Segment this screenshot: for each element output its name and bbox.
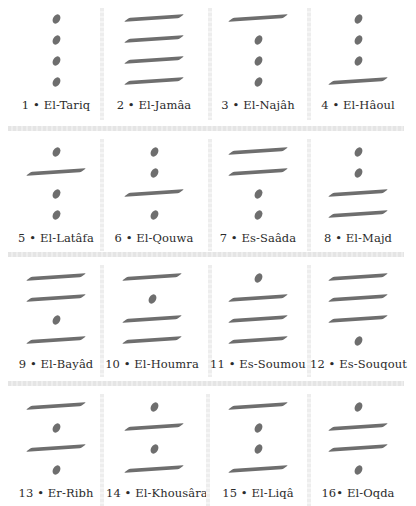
figure-glyph: [210, 133, 306, 225]
line-mark-icon: [228, 14, 288, 21]
figure-level-1: [106, 147, 202, 157]
figure-level-2: [310, 168, 406, 178]
dot-mark-icon: [51, 55, 62, 67]
figure-glyph: [106, 388, 202, 480]
figure-glyph: [8, 259, 104, 351]
figure-level-3: [210, 189, 306, 199]
figure-level-1: [310, 402, 406, 412]
figure-cell-3: 3 • El-Najâh: [210, 0, 306, 118]
figure-level-1: [106, 14, 202, 24]
line-mark-icon: [328, 294, 388, 301]
figure-glyph: [104, 259, 200, 351]
figure-label: 13 • Er-Ribh: [8, 486, 104, 500]
figure-level-2: [106, 168, 202, 178]
figure-level-2: [104, 294, 200, 304]
figure-level-4: [210, 336, 306, 346]
figure-label: 8 • El-Majd: [310, 231, 406, 245]
figure-level-1: [8, 14, 104, 24]
dot-mark-icon: [149, 443, 160, 455]
figure-row-3: 9 • El-Bayâd 10 • El-Houmra 11 • Es-Soum…: [0, 259, 404, 377]
line-mark-icon: [228, 315, 288, 322]
figure-level-1: [8, 273, 104, 283]
figure-cell-7: 7 • Es-Saâda: [210, 133, 306, 251]
dot-mark-icon: [51, 464, 62, 476]
figure-level-2: [106, 423, 202, 433]
figure-level-1: [106, 402, 202, 412]
figure-level-1: [210, 147, 306, 157]
dot-mark-icon: [353, 464, 364, 476]
dot-mark-icon: [51, 13, 62, 25]
figure-level-2: [210, 294, 306, 304]
dot-mark-icon: [253, 443, 264, 455]
figure-level-2: [310, 423, 406, 433]
line-mark-icon: [124, 14, 184, 21]
figure-row-4: 13 • Er-Ribh 14 • El-Khousâra 15 • El-Li…: [0, 388, 404, 506]
line-mark-icon: [328, 189, 388, 196]
dot-mark-icon: [253, 34, 264, 46]
figure-level-1: [310, 273, 406, 283]
figure-level-2: [8, 294, 104, 304]
figure-label: 11 • Es-Soumou: [210, 357, 306, 371]
figure-label: 12 • Es-Souqout: [310, 357, 406, 371]
column-divider: [100, 139, 104, 251]
dot-mark-icon: [253, 76, 264, 88]
figure-level-3: [106, 56, 202, 66]
figure-glyph: [310, 259, 406, 351]
line-mark-icon: [26, 402, 86, 409]
figure-level-1: [210, 402, 306, 412]
figure-cell-2: 2 • El-Jamâa: [106, 0, 202, 118]
dot-mark-icon: [149, 209, 160, 221]
dot-mark-icon: [51, 188, 62, 200]
figure-cell-14: 14 • El-Khousâra: [106, 388, 202, 506]
figure-level-4: [8, 336, 104, 346]
figure-level-4: [8, 210, 104, 220]
figure-level-1: [104, 273, 200, 283]
line-mark-icon: [124, 77, 184, 84]
figure-level-4: [106, 210, 202, 220]
figure-glyph: [310, 133, 406, 225]
figure-label: 4 • El-Hâoul: [310, 98, 406, 112]
figure-glyph: [106, 0, 202, 92]
figure-level-3: [210, 56, 306, 66]
figure-level-3: [210, 315, 306, 325]
line-mark-icon: [328, 444, 388, 451]
dot-mark-icon: [51, 146, 62, 158]
dot-mark-icon: [353, 55, 364, 67]
dot-mark-icon: [51, 422, 62, 434]
dot-mark-icon: [353, 13, 364, 25]
dot-mark-icon: [253, 209, 264, 221]
figure-label: 9 • El-Bayâd: [8, 357, 104, 371]
figure-cell-8: 8 • El-Majd: [310, 133, 406, 251]
dot-mark-icon: [253, 188, 264, 200]
figure-level-4: [210, 210, 306, 220]
figure-glyph: [210, 388, 306, 480]
line-mark-icon: [328, 273, 388, 280]
figure-row-2: 5 • El-Latâfa 6 • El-Qouwa 7 • Es-Saâda …: [0, 133, 404, 251]
figure-cell-12: 12 • Es-Souqout: [310, 259, 406, 377]
figure-glyph: [310, 388, 406, 480]
figure-label: 5 • El-Latâfa: [8, 231, 104, 245]
line-mark-icon: [124, 465, 184, 472]
line-mark-icon: [122, 336, 182, 343]
figure-level-4: [106, 77, 202, 87]
figure-level-2: [310, 294, 406, 304]
line-mark-icon: [124, 56, 184, 63]
dot-mark-icon: [149, 401, 160, 413]
figure-level-4: [310, 77, 406, 87]
figure-level-4: [310, 336, 406, 346]
figure-level-2: [210, 423, 306, 433]
figure-level-2: [210, 35, 306, 45]
figure-glyph: [210, 259, 306, 351]
line-mark-icon: [228, 465, 288, 472]
figure-level-3: [104, 315, 200, 325]
figure-level-2: [8, 423, 104, 433]
figure-glyph: [8, 133, 104, 225]
dot-mark-icon: [149, 146, 160, 158]
line-mark-icon: [26, 444, 86, 451]
figure-row-1: 1 • El-Tariq 2 • El-Jamâa 3 • El-Najâh 4…: [0, 0, 404, 118]
figure-cell-10: 10 • El-Houmra: [104, 259, 200, 377]
line-mark-icon: [26, 273, 86, 280]
dot-mark-icon: [353, 146, 364, 158]
dot-mark-icon: [51, 314, 62, 326]
